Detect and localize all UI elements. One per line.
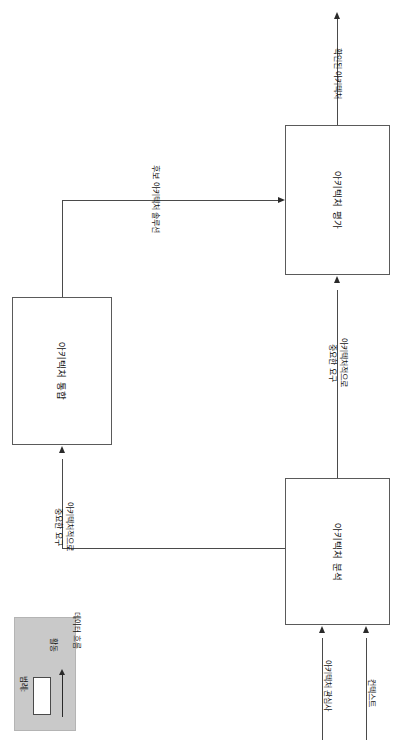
legend-swatch-activity-icon: [33, 677, 51, 715]
flow-line-candidate-solution-horizontal: [62, 200, 278, 201]
flow-line-asr-to-integration-horizontal: [62, 548, 285, 549]
arrowhead-context-icon: [363, 626, 369, 633]
flow-label-confirmed-architecture: 확인된 아키텍처: [332, 23, 343, 123]
flow-label-candidate-architecture-solution: 후보 아키텍처 솔루션: [150, 134, 161, 264]
legend-panel: 범례: 활동 데이터 흐름: [14, 617, 76, 731]
legend-label-activity: 활동: [49, 638, 60, 668]
activity-label-architecture-integration: 아키텍처 통합: [55, 342, 69, 400]
legend-label-data-flow: 데이터 흐름: [72, 612, 83, 666]
activity-label-architecture-analysis: 아키텍처 분석: [331, 522, 345, 580]
arrowhead-candidate-solution-icon: [278, 197, 285, 203]
arrowhead-architecture-concerns-icon: [319, 626, 325, 633]
legend-swatch-data-flow-line: [62, 675, 63, 717]
legend-swatch-data-flow-arrow-icon: [59, 669, 65, 675]
flow-label-asr-to-evaluation: 아키텍처적으로 중요한 요구: [326, 318, 348, 408]
flow-label-asr-to-integration: 아키텍처적으로 중요한 요구: [52, 482, 74, 572]
arrowhead-asr-to-evaluation-icon: [334, 276, 340, 283]
activity-label-architecture-evaluation: 아키텍처 평가: [331, 171, 345, 229]
arrowhead-confirmed-architecture-icon: [334, 12, 340, 19]
activity-box-architecture-analysis[interactable]: 아키텍처 분석: [285, 478, 390, 625]
arrowhead-asr-to-integration-icon: [59, 446, 65, 453]
flowchart-canvas: 확인된 아키텍처 아키텍처 평가 후보 아키텍처 솔루션 아키텍처 통합 아키텍…: [0, 0, 405, 746]
legend-title: 범례:: [19, 676, 30, 710]
activity-box-architecture-integration[interactable]: 아키텍처 통합: [12, 297, 112, 445]
activity-box-architecture-evaluation[interactable]: 아키텍처 평가: [285, 125, 390, 275]
flow-label-architecture-concerns: 아키텍처 관심사: [322, 635, 333, 735]
flow-label-context: 컨텍스트: [366, 653, 377, 733]
flow-line-candidate-solution-vertical: [62, 200, 63, 297]
